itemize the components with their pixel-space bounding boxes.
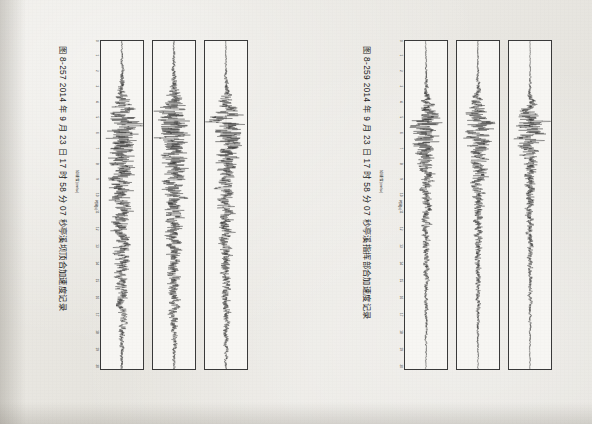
x-tick-label: 5 — [96, 116, 100, 118]
x-tick-label: 8 — [400, 163, 404, 165]
x-tick-label: 17 — [400, 313, 404, 316]
x-axis-8-259: 01234567891011121314151617181920 时间(s) — [399, 40, 405, 370]
x-tick-label: 11 — [400, 210, 404, 213]
x-tick-label: 20 — [400, 365, 404, 368]
x-tick-label: 9 — [96, 178, 100, 180]
waveform-trace — [514, 41, 551, 369]
x-tick-label: 6 — [400, 132, 404, 134]
x-tick-label: 2 — [400, 70, 404, 72]
x-tick-label: 8 — [96, 163, 100, 165]
plot-56SD01-EW[interactable]: Acceleration 56SD01-14SEP2317580174-EW a… — [100, 40, 144, 370]
x-tick-label: 17 — [96, 313, 100, 316]
waveform-trace — [106, 41, 143, 369]
x-tick-label: 9 — [400, 178, 404, 180]
figure-8-257-charts: Acceleration 56SD01-14SEP2317580172-UD a… — [100, 40, 248, 370]
x-tick-label: 7 — [400, 147, 404, 149]
x-tick-label: 6 — [96, 132, 100, 134]
chart-row: Acceleration 56SD03-14SEP2317580176-NS a… — [456, 40, 500, 370]
figure-8-259-charts: Acceleration 56SD03-14SEP2317580175-UD a… — [404, 40, 552, 370]
plot-56SD03-UD[interactable]: Acceleration 56SD03-14SEP2317580175-UD a… — [508, 40, 552, 370]
y-axis-label: 加速度(cm/s²) — [379, 170, 384, 193]
x-tick-label: 11 — [96, 210, 100, 213]
waveform-trace — [154, 41, 191, 369]
x-tick-label: 5 — [400, 116, 404, 118]
plot-56SD01-UD[interactable]: Acceleration 56SD01-14SEP2317580172-UD a… — [204, 40, 248, 370]
chart-row: Acceleration 56SD01-14SEP2317580173-NS a… — [152, 40, 196, 370]
x-tick-label: 18 — [400, 330, 404, 333]
x-tick-label: 10 — [96, 193, 100, 196]
x-tick-label: 16 — [400, 296, 404, 299]
waveform-56SD01-UD — [205, 41, 247, 369]
x-tick-label: 13 — [400, 244, 404, 247]
x-axis-8-257: 01234567891011121314151617181920 时间(s) — [95, 40, 101, 370]
x-tick-label: 15 — [400, 279, 404, 282]
x-tick-label: 16 — [96, 296, 100, 299]
figure-8-257: Acceleration 56SD01-14SEP2317580172-UD a… — [52, 40, 248, 370]
x-tick-label: 12 — [96, 227, 100, 230]
chart-row: Acceleration 56SD03-14SEP2317580177-EW a… — [404, 40, 448, 370]
figure-caption-8-259: 图 8-259 2014 年 9 月 23 日 17 时 58 分 07 秒亭溪… — [362, 46, 374, 319]
x-tick-labels: 01234567891011121314151617181920 — [96, 40, 100, 370]
waveform-56SD03-UD — [509, 41, 551, 369]
chart-row: Acceleration 56SD01-14SEP2317580172-UD a… — [204, 40, 248, 370]
x-tick-label: 19 — [96, 347, 100, 350]
plot-56SD01-NS[interactable]: Acceleration 56SD01-14SEP2317580173-NS a… — [152, 40, 196, 370]
chart-row: Acceleration 56SD03-14SEP2317580175-UD a… — [508, 40, 552, 370]
x-tick-labels: 01234567891011121314151617181920 — [400, 40, 404, 370]
x-tick-label: 1 — [96, 55, 100, 57]
waveform-56SD03-EW — [405, 41, 447, 369]
x-tick-label: 15 — [96, 279, 100, 282]
x-tick-label: 10 — [400, 193, 404, 196]
plot-56SD03-NS[interactable]: Acceleration 56SD03-14SEP2317580176-NS a… — [456, 40, 500, 370]
y-axis-label: 加速度(cm/s²) — [75, 170, 80, 193]
x-tick-label: 4 — [400, 101, 404, 103]
chart-row: Acceleration 56SD01-14SEP2317580174-EW a… — [100, 40, 144, 370]
waveform-56SD03-NS — [457, 41, 499, 369]
waveform-trace — [463, 41, 495, 369]
figure-caption-8-257: 图 8-257 2014 年 9 月 23 日 17 时 58 分 07 秒亭溪… — [58, 46, 70, 311]
x-tick-label: 3 — [96, 86, 100, 88]
x-tick-label: 3 — [400, 86, 404, 88]
x-tick-label: 18 — [96, 330, 100, 333]
x-tick-label: 0 — [96, 40, 100, 42]
x-tick-label: 4 — [96, 101, 100, 103]
x-tick-label: 14 — [400, 261, 404, 264]
waveform-trace — [205, 41, 245, 369]
x-tick-label: 1 — [400, 55, 404, 57]
waveform-56SD01-NS — [153, 41, 195, 369]
x-tick-label: 20 — [96, 365, 100, 368]
figure-8-259: Acceleration 56SD03-14SEP2317580175-UD a… — [356, 40, 552, 370]
x-tick-label: 12 — [400, 227, 404, 230]
x-tick-label: 7 — [96, 147, 100, 149]
x-tick-label: 14 — [96, 261, 100, 264]
x-tick-label: 2 — [96, 70, 100, 72]
x-tick-label: 19 — [400, 347, 404, 350]
waveform-56SD01-EW — [101, 41, 143, 369]
x-tick-label: 0 — [400, 40, 404, 42]
plot-56SD03-EW[interactable]: Acceleration 56SD03-14SEP2317580177-EW a… — [404, 40, 448, 370]
x-tick-label: 13 — [96, 244, 100, 247]
